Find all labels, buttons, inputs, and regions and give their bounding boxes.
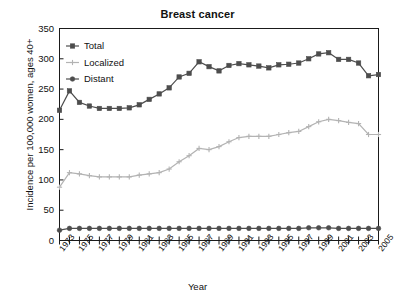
y-tick-label: 250 — [20, 83, 54, 94]
series-distant — [57, 225, 381, 232]
y-tick-label: 100 — [20, 174, 54, 185]
legend-item-localized: Localized — [84, 57, 124, 68]
y-tick-label: 50 — [20, 204, 54, 215]
legend-item-total: Total — [84, 40, 104, 51]
y-tick-label: 0 — [20, 235, 54, 246]
y-tick-label: 350 — [20, 23, 54, 34]
series-localized — [57, 117, 381, 190]
chart-figure: Breast cancer Incidence per 100,000 wome… — [0, 0, 395, 298]
plot-area — [0, 0, 395, 298]
legend-markers — [66, 44, 79, 81]
y-tick-label: 200 — [20, 113, 54, 124]
legend-item-distant: Distant — [84, 73, 114, 84]
y-tick-label: 300 — [20, 53, 54, 64]
y-tick-label: 150 — [20, 144, 54, 155]
